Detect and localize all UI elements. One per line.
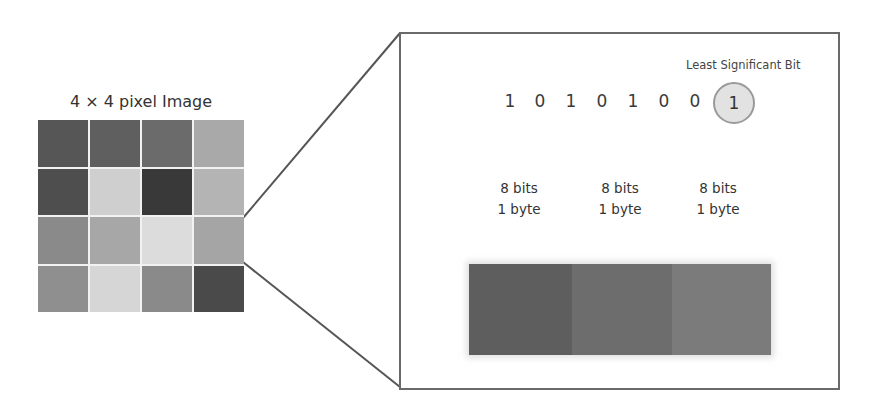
byte-label-3: 8 bits 1 byte (678, 178, 758, 220)
byte-label-1: 8 bits 1 byte (479, 178, 559, 220)
byte-segment-1 (469, 264, 572, 355)
byte-label-2: 8 bits 1 byte (580, 178, 660, 220)
zoom-connector-bottom (243, 262, 400, 387)
pixel-bytes-bar (469, 264, 771, 355)
byte-segment-2 (572, 264, 672, 355)
pixel-cell-r1-c3 (142, 120, 192, 167)
pixel-cell-r1-c4 (194, 120, 244, 167)
lsb-bit-circle: 1 (713, 82, 755, 124)
pixel-cell-r3-c4 (194, 217, 244, 264)
pixel-cell-r4-c2 (90, 266, 140, 313)
bit-1: 0 (685, 91, 705, 111)
pixel-cell-r3-c1 (38, 217, 88, 264)
byte-size-label: 1 byte (580, 199, 660, 220)
bits-label: 8 bits (678, 178, 758, 199)
lsb-label: Least Significant Bit (686, 58, 800, 72)
bit-4: 0 (592, 91, 612, 111)
pixel-cell-r3-c3 (142, 217, 192, 264)
lsb-bit: 1 (729, 93, 740, 113)
bits-label: 8 bits (479, 178, 559, 199)
pixel-cell-r2-c2 (90, 169, 140, 216)
bit-3: 1 (623, 91, 643, 111)
pixel-image-title: 4 × 4 pixel Image (38, 92, 244, 111)
bit-2: 0 (654, 91, 674, 111)
pixel-cell-r4-c4 (194, 266, 244, 313)
pixel-cell-r2-c4 (194, 169, 244, 216)
pixel-cell-r4-c1 (38, 266, 88, 313)
pixel-cell-r4-c3 (142, 266, 192, 313)
bits-label: 8 bits (580, 178, 660, 199)
pixel-cell-r1-c2 (90, 120, 140, 167)
pixel-cell-r2-c1 (38, 169, 88, 216)
pixel-cell-r3-c2 (90, 217, 140, 264)
pixel-grid (38, 120, 244, 312)
bit-7: 1 (500, 91, 520, 111)
bit-5: 1 (561, 91, 581, 111)
bit-6: 0 (530, 91, 550, 111)
pixel-cell-r2-c3 (142, 169, 192, 216)
byte-segment-3 (672, 264, 771, 355)
byte-size-label: 1 byte (479, 199, 559, 220)
pixel-cell-r1-c1 (38, 120, 88, 167)
byte-size-label: 1 byte (678, 199, 758, 220)
zoom-connector-top (243, 33, 400, 218)
